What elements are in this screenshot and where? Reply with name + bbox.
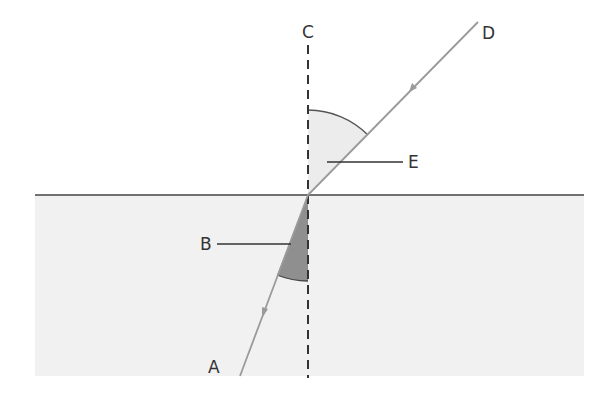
label-a: A	[208, 357, 220, 377]
refraction-diagram: C D E B A	[0, 0, 611, 394]
label-c: C	[302, 22, 314, 42]
incident-ray	[308, 22, 478, 195]
label-d: D	[482, 23, 495, 43]
angle-e-sector	[308, 110, 368, 195]
label-b: B	[200, 234, 212, 254]
dense-medium	[35, 195, 584, 376]
label-e: E	[408, 152, 419, 172]
